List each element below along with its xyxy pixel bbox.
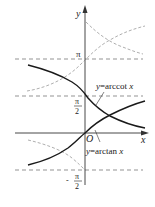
arctan-label: y=arctan x bbox=[85, 146, 123, 156]
svg-text:2: 2 bbox=[75, 107, 79, 116]
y-axis-label: y bbox=[75, 8, 81, 19]
pi-tick-label: π bbox=[76, 49, 81, 59]
inverse-trig-graph: y x O π π 2 - π 2 y=arccot x y=arctan x bbox=[0, 0, 155, 207]
axes bbox=[15, 9, 145, 185]
svg-text:π: π bbox=[75, 97, 79, 106]
origin-label: O bbox=[86, 133, 93, 144]
arccot-leader bbox=[96, 92, 104, 105]
svg-text:2: 2 bbox=[75, 182, 79, 191]
arctan-leader bbox=[95, 130, 100, 142]
reference-lines bbox=[15, 59, 143, 170]
arccot-curve bbox=[28, 65, 145, 128]
arccot-label: y=arccot x bbox=[95, 81, 133, 91]
svg-text:-: - bbox=[66, 176, 69, 185]
neg-half-pi-tick-label: - π 2 bbox=[66, 172, 82, 191]
dashed-curve-upper-decreasing bbox=[86, 22, 143, 54]
x-axis-label: x bbox=[140, 134, 146, 145]
svg-text:π: π bbox=[75, 172, 79, 181]
half-pi-tick-label: π 2 bbox=[74, 97, 82, 116]
y-axis-arrow-icon bbox=[83, 5, 88, 13]
